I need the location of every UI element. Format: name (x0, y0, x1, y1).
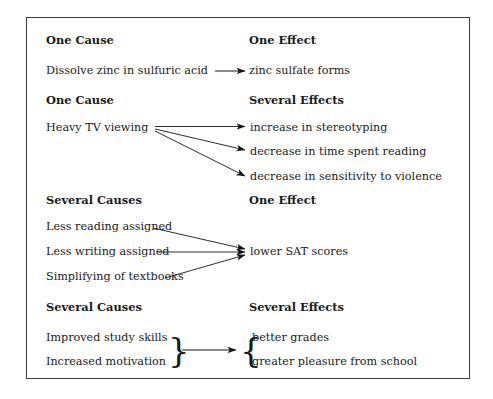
section-3-cause-item-3: Simplifying of textbooks (46, 271, 184, 282)
section-4-cause-item-2: Increased motivation (46, 356, 166, 367)
section-2-effect-item-3: decrease in sensitivity to violence (250, 171, 442, 182)
section-2-effect-item-1: increase in stereotyping (250, 122, 387, 133)
section-1-effect-heading: One Effect (249, 35, 316, 46)
section-4-effect-item-2: greater pleasure from school (252, 356, 417, 367)
section-2-cause-heading: One Cause (46, 95, 114, 106)
section-2-effect-heading: Several Effects (249, 95, 344, 106)
section-3-cause-item-1: Less reading assigned (46, 221, 172, 232)
cause-effect-diagram-page: One Cause One Effect Dissolve zinc in su… (0, 0, 493, 399)
causes-group-brace: } (168, 333, 190, 367)
section-1-cause-item: Dissolve zinc in sulfuric acid (46, 65, 208, 76)
section-2-effect-item-2: decrease in time spent reading (250, 146, 426, 157)
section-4-cause-item-1: Improved study skills (46, 332, 167, 343)
section-1-cause-heading: One Cause (46, 35, 114, 46)
section-1-effect-item: zinc sulfate forms (249, 65, 350, 76)
section-4-effect-heading: Several Effects (249, 302, 344, 313)
section-4-effect-item-1: better grades (252, 332, 329, 343)
section-2-cause-item: Heavy TV viewing (46, 122, 148, 133)
section-4-cause-heading: Several Causes (46, 302, 142, 313)
section-3-cause-item-2: Less writing assigned (46, 246, 169, 257)
section-3-effect-item: lower SAT scores (250, 246, 348, 257)
section-3-effect-heading: One Effect (249, 195, 316, 206)
section-3-cause-heading: Several Causes (46, 195, 142, 206)
